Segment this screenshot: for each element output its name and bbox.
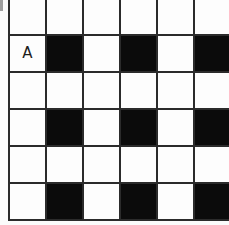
grid-row (10, 147, 229, 184)
grid-cell-empty[interactable] (158, 36, 195, 73)
grid-cell-empty[interactable] (10, 110, 47, 147)
grid-cell-empty[interactable] (84, 36, 121, 73)
grid-row (10, 184, 229, 221)
grid-cell-empty[interactable] (195, 73, 229, 110)
grid-cell-empty[interactable] (158, 0, 195, 36)
grid-cell-filled[interactable] (195, 110, 229, 147)
checkerboard-grid: A (8, 0, 229, 221)
scan-speck (0, 0, 3, 11)
grid-cell-filled[interactable] (47, 110, 84, 147)
grid-cell-empty[interactable] (121, 73, 158, 110)
grid-cell-filled[interactable] (121, 36, 158, 73)
grid-cell-empty[interactable] (47, 147, 84, 184)
grid-cell-empty[interactable] (10, 0, 47, 36)
grid-cell-filled[interactable] (47, 184, 84, 221)
grid-cell-empty[interactable] (195, 147, 229, 184)
grid-cell-filled[interactable] (121, 184, 158, 221)
grid-cell-filled[interactable] (121, 110, 158, 147)
grid-row: A (10, 36, 229, 73)
grid-row (10, 73, 229, 110)
grid-cell-empty[interactable] (195, 0, 229, 36)
grid-cell-empty[interactable] (84, 0, 121, 36)
grid-cell-empty[interactable] (121, 147, 158, 184)
grid-cell-empty[interactable] (158, 73, 195, 110)
grid-cell-filled[interactable] (47, 36, 84, 73)
grid-cell-empty[interactable] (158, 184, 195, 221)
scanned-page: A (0, 0, 229, 225)
grid-cell-empty[interactable] (158, 147, 195, 184)
grid-cell-empty[interactable] (84, 147, 121, 184)
grid-cell-filled[interactable] (195, 36, 229, 73)
grid-cell-filled[interactable] (195, 184, 229, 221)
grid-cell-empty[interactable] (121, 0, 158, 36)
grid-cell-empty[interactable]: A (10, 36, 47, 73)
grid-row (10, 0, 229, 36)
grid-cell-empty[interactable] (47, 0, 84, 36)
grid-cell-empty[interactable] (10, 73, 47, 110)
grid-cell-empty[interactable] (84, 73, 121, 110)
grid-cell-empty[interactable] (84, 184, 121, 221)
grid-cell-empty[interactable] (10, 184, 47, 221)
grid-row (10, 110, 229, 147)
grid-cell-empty[interactable] (47, 73, 84, 110)
grid-cell-empty[interactable] (158, 110, 195, 147)
cell-label: A (10, 36, 45, 71)
grid-cell-empty[interactable] (84, 110, 121, 147)
grid-cell-empty[interactable] (10, 147, 47, 184)
